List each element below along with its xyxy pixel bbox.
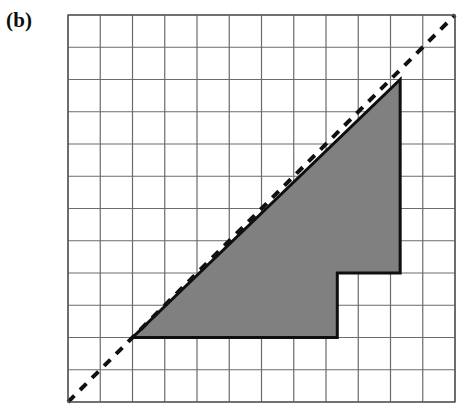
grid-plot	[0, 0, 476, 410]
figure-panel: (b)	[0, 0, 476, 410]
